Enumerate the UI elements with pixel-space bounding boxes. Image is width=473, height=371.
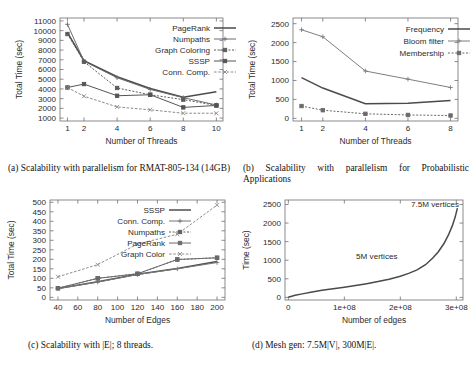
y-axis-tick-label: 500 — [267, 275, 281, 284]
y-axis-tick-label: 11000 — [34, 17, 56, 26]
y-axis-tick-label: 300 — [32, 236, 46, 245]
legend-marker — [178, 219, 183, 224]
plot-frame — [285, 200, 463, 300]
x-axis-tick-label: 120 — [131, 303, 145, 312]
chart-c-svg: 0501001502002503003504004505004060801001… — [0, 188, 236, 338]
x-axis-title: Number of Threads — [340, 136, 412, 146]
x-axis-tick-label: 40 — [53, 303, 63, 312]
figure-container: 1000200030004000500060007000800090001000… — [0, 0, 473, 371]
y-axis-tick-label: 1000 — [38, 114, 57, 123]
series-point — [321, 109, 324, 112]
chart-a-svg: 1000200030004000500060007000800090001000… — [0, 0, 236, 160]
series-line — [302, 78, 451, 104]
y-axis-tick-label: 0 — [276, 293, 281, 302]
legend-marker — [223, 59, 226, 62]
caption-d-text: Mesh gen: 7.5M|V|, 300M|E|. — [265, 340, 376, 350]
y-axis-tick-label: 1500 — [271, 57, 290, 66]
legend-label: SSSP — [188, 57, 210, 66]
caption-d-label: (d) — [252, 340, 263, 350]
legend-marker — [457, 51, 460, 54]
series-point — [96, 277, 99, 280]
y-axis-tick-label: 7000 — [38, 56, 57, 65]
legend-marker — [223, 48, 226, 51]
legend-marker-glyph — [178, 241, 181, 244]
y-axis-tick-label: 400 — [32, 217, 46, 226]
y-axis-tick-label: 2000 — [271, 39, 290, 48]
legend-label: Membership — [399, 49, 444, 58]
y-axis-tick-label: 2500 — [263, 200, 282, 209]
x-axis-title: Number of edges — [342, 315, 406, 325]
x-axis-tick-label: 2 — [82, 124, 87, 133]
x-axis-tick-label: 6 — [406, 124, 411, 133]
chart-b-svg: 0500100015002000250012468FrequencyBloom … — [237, 0, 473, 160]
y-axis-tick-label: 1000 — [271, 76, 290, 85]
caption-a-text: Scalability with parallelism for RMAT-80… — [21, 163, 230, 173]
x-axis-tick-label: 1 — [65, 124, 70, 133]
series-point — [82, 82, 85, 85]
series-point — [300, 104, 303, 107]
legend-label: Conn. Comp. — [117, 217, 165, 226]
y-axis-title: Total Time (sec) — [247, 40, 257, 99]
y-axis-tick-label: 500 — [275, 95, 289, 104]
chart-annotation: 5M vertices — [356, 252, 397, 261]
x-axis-tick-label: 200 — [210, 303, 224, 312]
x-axis-tick-label: 0 — [286, 303, 291, 312]
y-axis-tick-label: 2000 — [38, 104, 57, 113]
y-axis-tick-label: 6000 — [38, 65, 57, 74]
y-axis-tick-label: 500 — [32, 198, 46, 207]
y-axis-tick-label: 8000 — [38, 46, 57, 55]
x-axis-tick-label: 1e+08 — [333, 303, 356, 312]
x-axis-tick-label: 8 — [448, 124, 453, 133]
y-axis-tick-label: 50 — [37, 284, 47, 293]
chart-annotation: 7.5M vertices — [411, 200, 459, 209]
y-axis-title: Total Time (sec) — [14, 40, 24, 99]
x-axis-tick-label: 2e+08 — [389, 303, 412, 312]
x-axis-tick-label: 180 — [190, 303, 204, 312]
x-axis-tick-label: 80 — [93, 303, 103, 312]
caption-b: (b) Scalability with parallelism for Pro… — [243, 163, 469, 186]
legend-marker-glyph — [223, 59, 226, 62]
data-series-membership — [300, 104, 452, 117]
legend-marker-glyph — [223, 48, 226, 51]
caption-b-text: Scalability with parallelism for Probabi… — [243, 163, 469, 184]
series-point — [115, 94, 118, 97]
series-point — [406, 113, 409, 116]
x-axis-tick-label: 60 — [73, 303, 83, 312]
y-axis-tick-label: 250 — [32, 246, 46, 255]
caption-b-label: (b) — [243, 163, 254, 173]
y-axis-title: Total Time (sec) — [6, 220, 16, 279]
y-axis-tick-label: 0 — [284, 114, 289, 123]
y-axis-title: Time (sec) — [241, 230, 251, 269]
legend-label: Bloom filter — [404, 37, 445, 46]
caption-c-label: (c) — [28, 340, 38, 350]
x-axis-tick-label: 160 — [171, 303, 185, 312]
series-point — [115, 86, 118, 89]
legend-label: Numpaths — [128, 228, 165, 237]
x-axis-tick-label: 6 — [148, 124, 153, 133]
data-series-frequency — [302, 78, 451, 104]
legend-label: Numpaths — [173, 35, 210, 44]
y-axis-tick-label: 3000 — [38, 95, 57, 104]
x-axis-title: Number of Edges — [105, 315, 170, 325]
y-axis-tick-label: 1500 — [263, 238, 282, 247]
y-axis-tick-label: 5000 — [38, 75, 57, 84]
chart-panel-c: 0501001502002503003504004505004060801001… — [0, 188, 236, 338]
caption-c-text: Scalability with |E|; 8 threads. — [41, 340, 153, 350]
series-point — [136, 272, 139, 275]
y-axis-tick-label: 200 — [32, 255, 46, 264]
chart-panel-a: 1000200030004000500060007000800090001000… — [0, 0, 236, 160]
legend-marker — [178, 230, 181, 233]
y-axis-tick-label: 10000 — [33, 27, 56, 36]
x-axis-tick-label: 100 — [111, 303, 125, 312]
series-point — [215, 256, 218, 259]
caption-a-label: (a) — [8, 163, 18, 173]
caption-d: (d) Mesh gen: 7.5M|V|, 300M|E|. — [252, 340, 467, 351]
x-axis-tick-label: 10 — [212, 124, 222, 133]
y-axis-tick-label: 2000 — [263, 219, 282, 228]
legend-marker-glyph — [178, 230, 181, 233]
series-point — [176, 258, 179, 261]
chart-panel-d: 0500100015002000250001e+082e+083e+087.5M… — [237, 188, 473, 338]
caption-a: (a) Scalability with parallelism for RMA… — [8, 163, 230, 174]
caption-c: (c) Scalability with |E|; 8 threads. — [28, 340, 228, 351]
legend-label: Frequency — [406, 25, 445, 34]
